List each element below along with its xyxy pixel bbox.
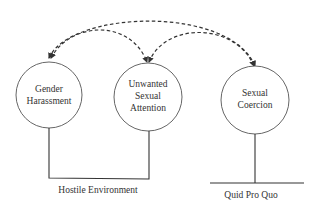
group-quid-pro-quo: Quid Pro Quo [210, 134, 304, 200]
group-label: Quid Pro Quo [224, 190, 278, 200]
group-bracket [49, 128, 149, 179]
node-label-line: Unwanted [128, 79, 167, 89]
node-circle [16, 62, 82, 128]
node-sexual-coercion: Sexual Coercion [221, 66, 289, 134]
group-label: Hostile Environment [58, 185, 138, 195]
node-label-line: Sexual [135, 91, 161, 101]
node-label-line: Attention [130, 103, 166, 113]
group-hostile-environment: Hostile Environment [49, 128, 149, 195]
edge-attention-to-coercion [149, 32, 254, 66]
node-label-line: Gender [35, 84, 64, 94]
node-gender-harassment: Gender Harassment [16, 62, 82, 128]
diagram-canvas: Gender Harassment Unwanted Sexual Attent… [0, 0, 315, 209]
node-label-line: Sexual [242, 88, 268, 98]
edge-gender-to-coercion [49, 21, 255, 66]
node-label-line: Coercion [238, 100, 273, 110]
edge-gender-to-attention [51, 30, 147, 62]
node-unwanted-sexual-attention: Unwanted Sexual Attention [114, 63, 182, 131]
node-label-line: Harassment [27, 96, 72, 106]
